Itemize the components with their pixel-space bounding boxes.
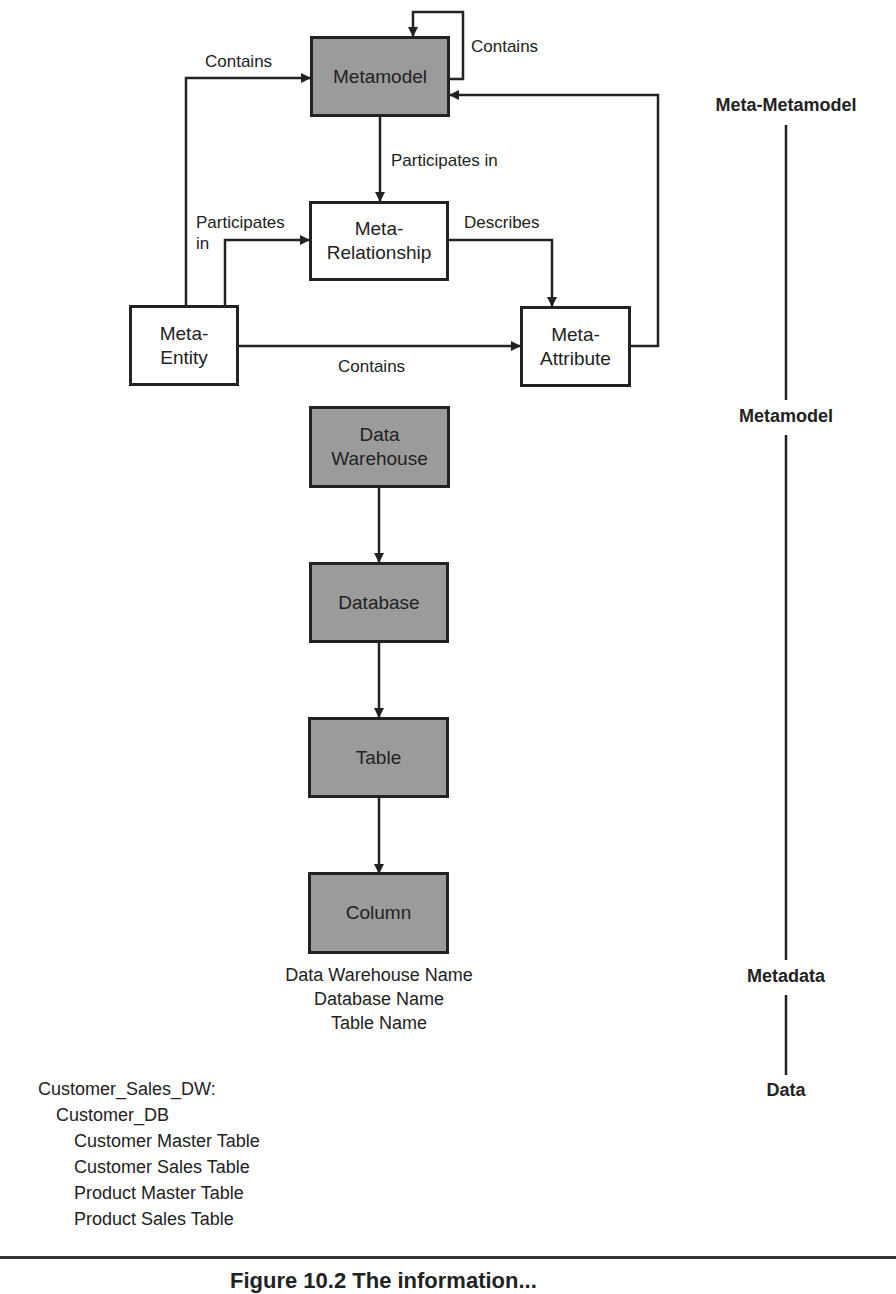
data-warehouse-label-1: Data xyxy=(359,424,399,445)
edge-label-metamodel-relationship: Participates in xyxy=(391,150,498,171)
column-attribute: Database Name xyxy=(285,987,472,1011)
example-warehouse: Customer_Sales_DW: xyxy=(38,1076,260,1102)
edge-label-metamodel-self: Contains xyxy=(471,36,538,57)
example-table: Customer Master Table xyxy=(38,1128,260,1154)
edge-label-entity-relationship-1: Participates xyxy=(196,213,285,232)
example-data: Customer_Sales_DW: Customer_DB Customer … xyxy=(38,1076,260,1232)
example-table: Product Sales Table xyxy=(38,1206,260,1232)
level-metamodel: Metamodel xyxy=(739,406,833,427)
table-label: Table xyxy=(356,746,401,770)
metamodel-box: Metamodel xyxy=(310,36,450,117)
data-warehouse-box: DataWarehouse xyxy=(309,406,450,488)
example-table: Customer Sales Table xyxy=(38,1154,260,1180)
column-box: Column xyxy=(308,872,449,954)
meta-entity-label-1: Meta- xyxy=(160,323,209,344)
data-warehouse-label-2: Warehouse xyxy=(331,448,427,469)
level-data: Data xyxy=(766,1080,805,1101)
table-box: Table xyxy=(308,717,449,798)
column-attribute: Table Name xyxy=(285,1011,472,1035)
metamodel-box-label: Metamodel xyxy=(333,65,427,89)
meta-attribute-label-1: Meta- xyxy=(551,324,600,345)
edge-label-entity-metamodel: Contains xyxy=(205,51,272,72)
column-attribute: Data Warehouse Name xyxy=(285,963,472,987)
database-box: Database xyxy=(309,562,449,643)
edge-label-relationship-attribute: Describes xyxy=(464,212,540,233)
level-metadata: Metadata xyxy=(747,966,825,987)
example-table: Product Master Table xyxy=(38,1180,260,1206)
caption-divider xyxy=(0,1256,896,1259)
column-attributes: Data Warehouse Name Database Name Table … xyxy=(285,963,472,1035)
meta-attribute-label-2: Attribute xyxy=(540,348,611,369)
meta-relationship-label-2: Relationship xyxy=(327,242,432,263)
meta-entity-label-2: Entity xyxy=(160,347,208,368)
meta-attribute-box: Meta-Attribute xyxy=(520,306,631,387)
edge-label-entity-relationship-2: in xyxy=(196,234,209,253)
meta-entity-box: Meta-Entity xyxy=(129,305,239,386)
level-meta-metamodel: Meta-Metamodel xyxy=(715,95,856,116)
column-label: Column xyxy=(346,901,411,925)
edge-label-entity-attribute: Contains xyxy=(338,356,405,377)
edge-label-entity-relationship: Participates in xyxy=(196,212,285,254)
figure-caption: Figure 10.2 The information... xyxy=(230,1268,537,1294)
database-label: Database xyxy=(338,591,419,615)
example-database: Customer_DB xyxy=(38,1102,260,1128)
meta-relationship-label-1: Meta- xyxy=(355,218,404,239)
meta-relationship-box: Meta-Relationship xyxy=(309,201,449,281)
